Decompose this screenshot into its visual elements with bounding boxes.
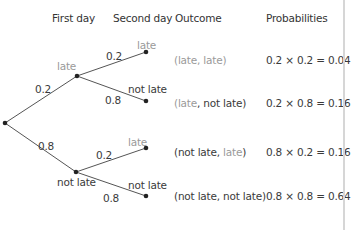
second-day-late-prob-1: 0.2 <box>106 51 122 62</box>
second-day-late-prob-2: 0.2 <box>96 150 112 161</box>
page-edge-divider <box>343 0 345 230</box>
header-second-day: Second day <box>113 13 172 24</box>
root-node <box>3 121 8 126</box>
second-day-late-label-2: late <box>128 137 147 148</box>
second-day-not-late-prob-1: 0.8 <box>105 95 121 106</box>
node-not-late-not-late <box>144 194 149 199</box>
probability-row-1: 0.2 × 0.2 = 0.04 <box>266 55 351 66</box>
second-day-not-late-label-1: not late <box>128 84 167 95</box>
second-day-not-late-label-2: not late <box>128 180 167 191</box>
probability-row-3: 0.8 × 0.2 = 0.16 <box>266 147 351 158</box>
probability-row-2: 0.2 × 0.8 = 0.16 <box>266 98 351 109</box>
first-day-not-late-prob: 0.8 <box>38 141 54 152</box>
first-day-late-label: late <box>57 61 76 72</box>
header-probabilities: Probabilities <box>266 13 328 24</box>
node-late-not-late <box>144 99 149 104</box>
outcome-row-2: (late, not late) <box>174 98 246 109</box>
probability-row-4: 0.8 × 0.8 = 0.64 <box>266 191 351 202</box>
second-day-not-late-prob-2: 0.8 <box>103 193 119 204</box>
node-first-late <box>75 74 80 79</box>
header-outcome: Outcome <box>175 13 222 24</box>
outcome-row-1: (late, late) <box>174 55 226 66</box>
outcome-row-4: (not late, not late) <box>174 191 266 202</box>
second-day-late-label-1: late <box>137 40 156 51</box>
first-day-not-late-label: not late <box>57 177 96 188</box>
first-day-late-prob: 0.2 <box>35 84 51 95</box>
node-first-not-late <box>74 170 79 175</box>
header-first-day: First day <box>52 13 95 24</box>
outcome-row-3: (not late, late) <box>174 147 246 158</box>
